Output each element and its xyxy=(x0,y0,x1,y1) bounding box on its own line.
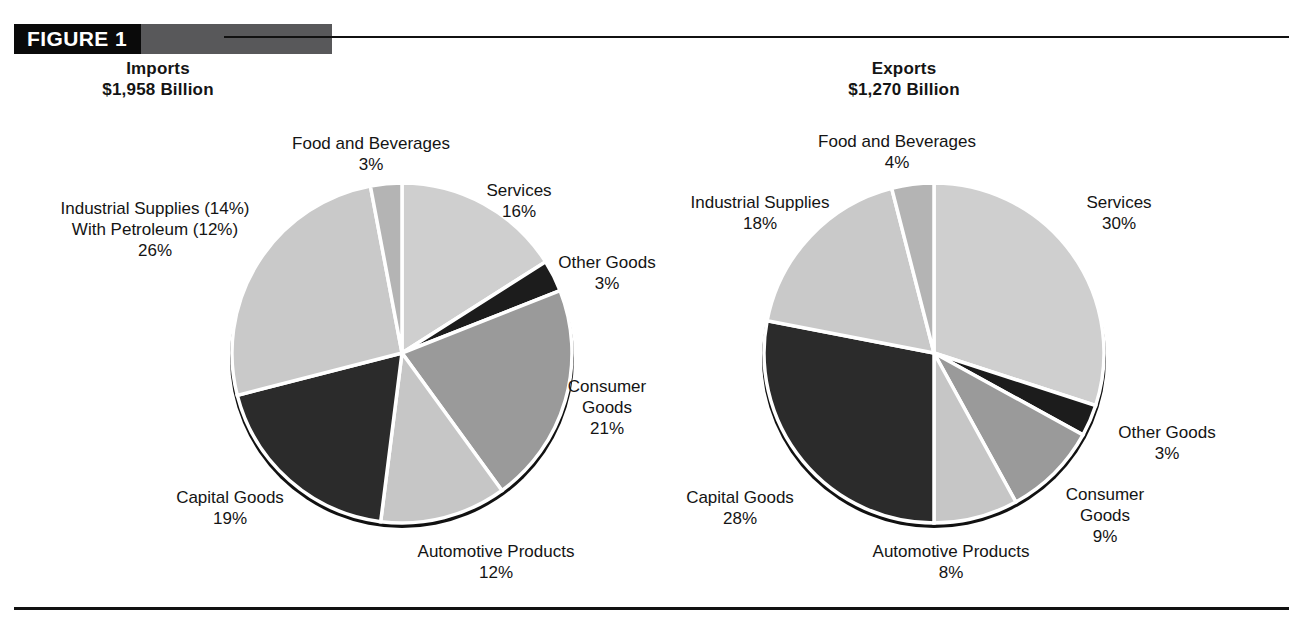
label-text: Automotive Products xyxy=(386,541,606,562)
chart-title-imports: Imports $1,958 Billion xyxy=(0,58,488,100)
label-value: 8% xyxy=(841,562,1061,583)
pie-label-imports-services: Services 16% xyxy=(459,180,579,222)
label-value: 12% xyxy=(386,562,606,583)
chart-title-exports: Exports $1,270 Billion xyxy=(575,58,1233,100)
label-text: Capital Goods xyxy=(660,487,820,508)
pie-svg-imports xyxy=(228,178,576,528)
label-value: 16% xyxy=(459,201,579,222)
label-text: Food and Beverages xyxy=(797,131,997,152)
pie-label-imports-automotive: Automotive Products 12% xyxy=(386,541,606,583)
label-text: Other Goods xyxy=(1097,422,1237,443)
label-text: Consumer xyxy=(1045,484,1165,505)
chart-subtitle-exports-total: $1,270 Billion xyxy=(575,79,1233,100)
pie-label-exports-automotive: Automotive Products 8% xyxy=(841,541,1061,583)
label-value: 30% xyxy=(1059,213,1179,234)
label-value: 19% xyxy=(150,508,310,529)
chart-subtitle-imports-total: $1,958 Billion xyxy=(0,79,488,100)
label-text: Services xyxy=(1059,192,1179,213)
label-value: 4% xyxy=(797,152,997,173)
pie-label-imports-capital-goods: Capital Goods 19% xyxy=(150,487,310,529)
label-text-2: Goods xyxy=(1045,505,1165,526)
pie-label-exports-food-and-beverages: Food and Beverages 4% xyxy=(797,131,997,173)
label-value: 3% xyxy=(1097,443,1237,464)
label-text-2: With Petroleum (12%) xyxy=(30,219,280,240)
label-value: 28% xyxy=(660,508,820,529)
pie-label-exports-industrial-supplies: Industrial Supplies 18% xyxy=(665,192,855,234)
pie-label-exports-capital-goods: Capital Goods 28% xyxy=(660,487,820,529)
label-value: 9% xyxy=(1045,526,1165,547)
label-text: Food and Beverages xyxy=(271,133,471,154)
chart-panel-exports: Exports $1,270 Billion xyxy=(645,0,1303,637)
pie-slices-imports xyxy=(232,183,572,523)
pie-label-exports-other-goods: Other Goods 3% xyxy=(1097,422,1237,464)
pie-label-exports-services: Services 30% xyxy=(1059,192,1179,234)
pie-chart-imports xyxy=(228,178,576,528)
label-value: 18% xyxy=(665,213,855,234)
label-text: Industrial Supplies (14%) xyxy=(30,198,280,219)
chart-panel-imports: Imports $1,958 Billion xyxy=(0,0,660,637)
label-text: Industrial Supplies xyxy=(665,192,855,213)
chart-title-exports-text: Exports xyxy=(575,58,1233,79)
label-text: Capital Goods xyxy=(150,487,310,508)
pie-label-imports-industrial-supplies: Industrial Supplies (14%) With Petroleum… xyxy=(30,198,280,261)
label-text: Services xyxy=(459,180,579,201)
figure-container: FIGURE 1 Imports $1,958 Billion xyxy=(0,0,1303,637)
pie-label-exports-consumer-goods: Consumer Goods 9% xyxy=(1045,484,1165,547)
pie-label-imports-food-and-beverages: Food and Beverages 3% xyxy=(271,133,471,175)
label-value: 3% xyxy=(271,154,471,175)
label-value: 26% xyxy=(30,240,280,261)
label-text: Automotive Products xyxy=(841,541,1061,562)
chart-title-imports-text: Imports xyxy=(0,58,488,79)
